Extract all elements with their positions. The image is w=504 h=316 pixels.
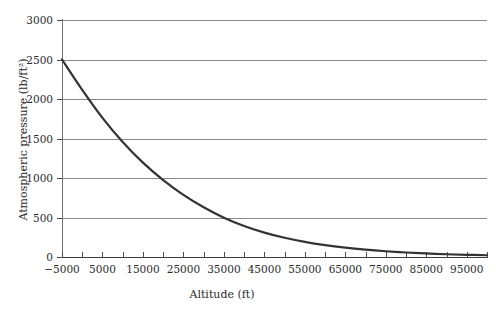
gridline — [62, 139, 487, 140]
x-tick — [264, 252, 265, 258]
x-axis-title-text: Altitude (ft) — [189, 288, 254, 301]
x-tick — [467, 252, 468, 258]
x-tick-label: 45000 — [248, 264, 281, 275]
x-tick-label: 15000 — [126, 264, 159, 275]
x-tick-label: 65000 — [329, 264, 362, 275]
x-tick — [204, 252, 205, 258]
x-tick-label: 35000 — [207, 264, 240, 275]
x-tick-label: 85000 — [410, 264, 443, 275]
y-tick — [57, 218, 62, 219]
x-axis-title: Altitude (ft) — [0, 288, 504, 301]
gridline — [62, 20, 487, 21]
x-tick — [143, 252, 144, 258]
x-tick-label: 25000 — [167, 264, 200, 275]
x-tick — [426, 252, 427, 258]
x-tick — [386, 252, 387, 258]
x-tick-label: −5000 — [44, 264, 80, 275]
gridline — [62, 99, 487, 100]
gridline — [62, 60, 487, 61]
x-tick — [62, 252, 63, 258]
x-tick — [183, 252, 184, 258]
x-tick-label: 95000 — [450, 264, 483, 275]
x-tick — [325, 252, 326, 258]
x-tick — [487, 252, 488, 258]
x-axis-line — [62, 257, 488, 258]
x-tick — [123, 252, 124, 258]
x-tick — [102, 252, 103, 258]
gridline — [62, 178, 487, 179]
y-axis-line — [62, 19, 63, 258]
x-tick — [406, 252, 407, 258]
x-tick — [163, 252, 164, 258]
x-tick — [305, 252, 306, 258]
pressure-curve — [62, 60, 487, 256]
y-tick — [57, 99, 62, 100]
x-tick — [285, 252, 286, 258]
y-tick — [57, 20, 62, 21]
chart-figure: 050010001500200025003000 −50005000150002… — [0, 0, 504, 316]
y-tick — [57, 139, 62, 140]
x-tick — [447, 252, 448, 258]
x-tick — [244, 252, 245, 258]
y-axis-title: Atmospheric pressure (lb/ft²) — [17, 25, 30, 255]
x-tick — [345, 252, 346, 258]
x-tick — [224, 252, 225, 258]
y-tick — [57, 60, 62, 61]
gridline — [62, 218, 487, 219]
x-tick — [82, 252, 83, 258]
x-tick — [366, 252, 367, 258]
x-tick-label: 55000 — [288, 264, 321, 275]
x-tick-label: 5000 — [89, 264, 116, 275]
x-tick-label: 75000 — [369, 264, 402, 275]
y-tick — [57, 178, 62, 179]
